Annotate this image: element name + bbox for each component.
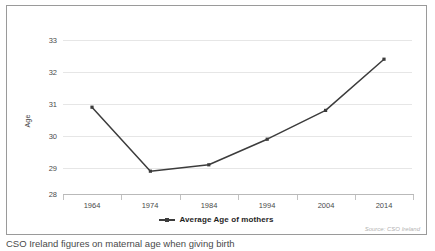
- y-axis-title: Age: [24, 101, 31, 141]
- data-point-marker: [382, 58, 385, 61]
- y-tick-label: 33: [35, 36, 57, 45]
- data-point-marker: [207, 163, 210, 166]
- x-tick-label: 1964: [63, 201, 121, 210]
- x-tick-label: 1994: [238, 201, 296, 210]
- y-tick-label: 30: [35, 132, 57, 141]
- legend-line-marker-icon: [159, 216, 175, 224]
- y-axis-tick-labels: 33 32 31 30 29 28: [35, 6, 57, 234]
- figure-caption: CSO Ireland figures on maternal age when…: [6, 238, 426, 249]
- data-point-marker: [149, 170, 152, 173]
- x-tick-separator: [413, 195, 414, 200]
- x-tick-separator: [180, 195, 181, 200]
- data-point-marker: [266, 138, 269, 141]
- legend-item-label: Average Age of mothers: [179, 215, 273, 224]
- x-tick-label: 1974: [121, 201, 179, 210]
- data-point-marker: [324, 109, 327, 112]
- chart-legend: Average Age of mothers: [7, 215, 426, 224]
- x-tick-separator: [355, 195, 356, 200]
- x-tick-label: 2004: [297, 201, 355, 210]
- y-tick-label: 31: [35, 100, 57, 109]
- chart-card: Age 33 32 31 30 29 28: [6, 5, 427, 235]
- x-tick-separator: [63, 195, 64, 200]
- x-tick-separator: [121, 195, 122, 200]
- series-markers: [90, 58, 385, 173]
- x-tick-label: 2014: [355, 201, 413, 210]
- x-axis: 1964 1974 1984 1994 2004 2014: [63, 194, 414, 215]
- y-tick-label: 29: [35, 164, 57, 173]
- source-note: Source: CSO Ireland: [365, 226, 420, 232]
- y-tick-label: 28: [35, 190, 57, 199]
- y-tick-label: 32: [35, 68, 57, 77]
- plot-area: Age 33 32 31 30 29 28: [7, 6, 426, 234]
- data-point-marker: [90, 106, 93, 109]
- series-polyline: [92, 59, 384, 171]
- x-tick-separator: [238, 195, 239, 200]
- x-tick-label: 1984: [180, 201, 238, 210]
- x-tick-separator: [297, 195, 298, 200]
